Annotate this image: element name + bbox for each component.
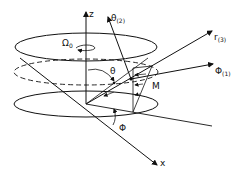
phi-unit-label: Φ(1) bbox=[215, 66, 231, 77]
x-axis bbox=[20, 58, 157, 165]
omega-label: Ω0 bbox=[62, 38, 73, 49]
r-unit-label: r(3) bbox=[214, 32, 226, 43]
theta-angle-label: θ bbox=[110, 66, 116, 76]
point-on-cone bbox=[113, 82, 116, 85]
profile-line bbox=[133, 66, 152, 112]
phi-unit-vector bbox=[131, 64, 213, 79]
z-axis-label: z bbox=[89, 9, 94, 19]
diagram-canvas: z x θ(2) r(3) Φ(1) θ Φ Ω0 M bbox=[0, 0, 242, 177]
point-m bbox=[129, 77, 132, 80]
phi-arc bbox=[113, 109, 115, 125]
theta-unit-label: θ(2) bbox=[111, 13, 125, 24]
point-m-label: M bbox=[152, 81, 160, 91]
velocity-arrow bbox=[135, 84, 143, 85]
phi-angle-label: Φ bbox=[119, 123, 126, 133]
x-axis-label: x bbox=[160, 158, 166, 168]
cone-line-left bbox=[86, 58, 148, 104]
projection-line bbox=[86, 104, 212, 126]
